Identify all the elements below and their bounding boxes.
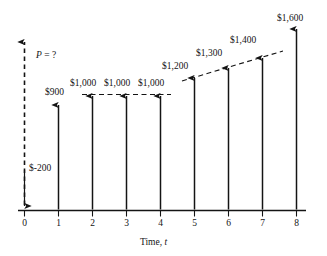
cash-flow-diagram: P = ? $-200 $900 $1,000 $1,000 $1,000 $1…: [0, 0, 327, 256]
x-axis-title-variable: t: [164, 237, 167, 247]
tick-label-1: 1: [51, 219, 67, 229]
tick-label-2: 2: [85, 219, 101, 229]
tick-label-7: 7: [255, 219, 271, 229]
label-t6-value: $1,300: [196, 49, 222, 59]
tick-label-5: 5: [187, 219, 203, 229]
tick-label-0: 0: [17, 219, 33, 229]
tick-label-8: 8: [289, 219, 305, 229]
x-axis-title: Time, t: [140, 238, 167, 248]
tick-label-3: 3: [119, 219, 135, 229]
label-t3-value: $1,000: [104, 79, 130, 89]
label-t4-value: $1,000: [138, 79, 164, 89]
label-t8-value: $1,600: [277, 14, 303, 24]
label-t7-value: $1,400: [230, 36, 256, 46]
diagram-canvas: [0, 0, 327, 256]
label-t0-negative: $-200: [29, 164, 51, 174]
tick-label-4: 4: [153, 219, 169, 229]
x-axis-title-text: Time,: [140, 237, 164, 247]
label-t1-value: $900: [45, 88, 64, 98]
label-p-unknown: P = ?: [36, 51, 56, 61]
label-p-rest: = ?: [42, 50, 56, 60]
tick-label-6: 6: [221, 219, 237, 229]
label-t5-value: $1,200: [162, 62, 188, 72]
label-t2-value: $1,000: [70, 79, 96, 89]
axis-tick-marks: [25, 211, 297, 217]
